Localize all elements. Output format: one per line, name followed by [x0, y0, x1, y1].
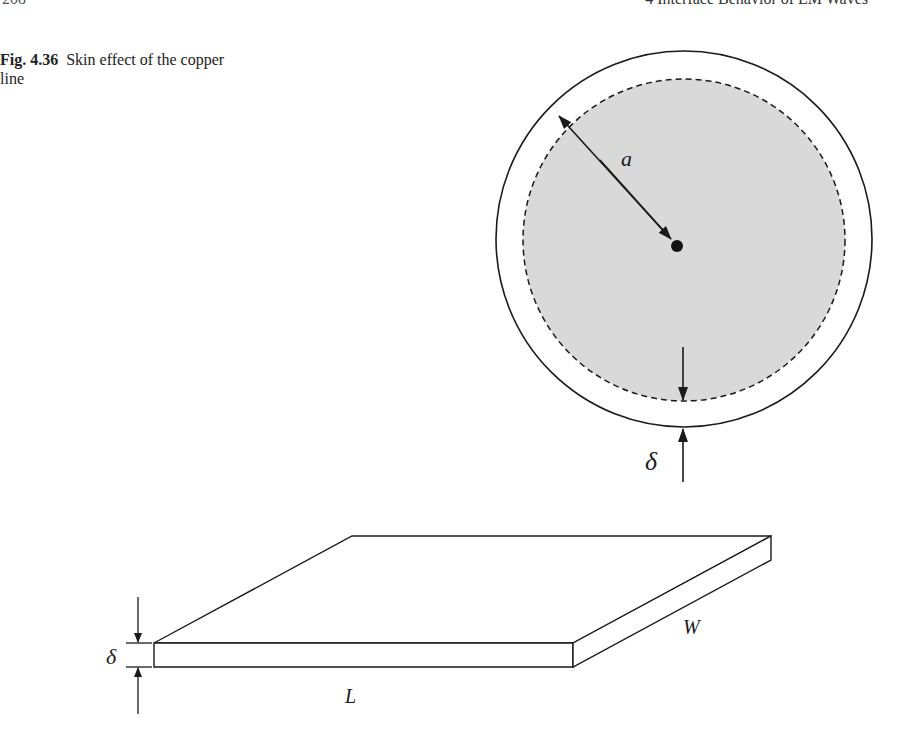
thickness-label: δ: [106, 644, 117, 669]
length-label: L: [344, 685, 356, 707]
circular-cross-section: a δ: [496, 51, 872, 482]
skin-depth-label: δ: [645, 447, 658, 476]
slab: δ L W: [106, 536, 771, 714]
width-label: W: [683, 616, 702, 638]
slab-front-face: [154, 643, 573, 667]
skin-effect-figure: a δ δ L W: [0, 0, 904, 743]
skin-depth-boundary: [523, 79, 845, 401]
center-dot: [671, 240, 683, 252]
radius-label: a: [621, 146, 632, 171]
